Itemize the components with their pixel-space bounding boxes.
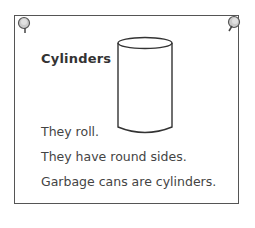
cylinder-illustration [116,36,176,136]
card-title: Cylinders [41,51,111,66]
pushpin-icon-left [16,16,32,34]
fact-line-3: Garbage cans are cylinders. [41,174,216,189]
fact-line-1: They roll. [41,124,99,139]
fact-line-2: They have round sides. [41,149,187,164]
pushpin-icon-right [226,15,242,33]
